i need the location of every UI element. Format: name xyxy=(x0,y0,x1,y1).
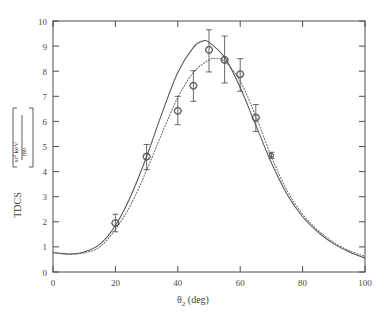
y-axis-bracket-right xyxy=(29,108,33,167)
x-axis-units: (deg) xyxy=(188,294,209,306)
x-tick-label: 20 xyxy=(111,278,121,288)
y-tick-label: 9 xyxy=(43,42,48,52)
theory-solid-curve xyxy=(53,40,365,258)
y-tick-labels: 012345678910 xyxy=(38,17,48,278)
data-point xyxy=(221,36,229,83)
y-axis-quantity-label: TDCS xyxy=(12,192,23,218)
theory-dotted-curve xyxy=(53,58,365,256)
experimental-data-points xyxy=(112,30,275,232)
y-tick-label: 8 xyxy=(43,67,48,77)
y-axis-numerator-label: mb xyxy=(20,147,28,156)
y-tick-label: 3 xyxy=(43,192,48,202)
svg-text:θ2 (deg): θ2 (deg) xyxy=(177,294,209,308)
y-axis-denominator-label: sr² keV xyxy=(12,142,20,163)
x-axis-title: θ2 (deg) xyxy=(177,294,209,308)
y-tick-label: 1 xyxy=(43,242,48,252)
y-tick-label: 5 xyxy=(43,142,48,152)
y-tick-label: 0 xyxy=(43,268,48,278)
tdcs-angular-distribution-plot: 020406080100 012345678910 θ2 (deg) TDCS … xyxy=(0,0,388,316)
x-tick-label: 60 xyxy=(236,278,246,288)
x-tick-labels: 020406080100 xyxy=(51,278,373,288)
y-tick-label: 7 xyxy=(43,92,48,102)
x-tick-label: 80 xyxy=(298,278,308,288)
x-tick-label: 100 xyxy=(358,278,372,288)
data-point xyxy=(205,30,213,72)
data-point xyxy=(174,96,182,124)
x-tick-label: 0 xyxy=(51,278,56,288)
y-tick-label: 6 xyxy=(43,117,48,127)
y-tick-label: 10 xyxy=(38,17,48,27)
x-tick-label: 40 xyxy=(173,278,183,288)
y-tick-label: 4 xyxy=(43,167,48,177)
y-tick-label: 2 xyxy=(43,217,48,227)
chart-figure: 020406080100 012345678910 θ2 (deg) TDCS … xyxy=(0,0,388,316)
